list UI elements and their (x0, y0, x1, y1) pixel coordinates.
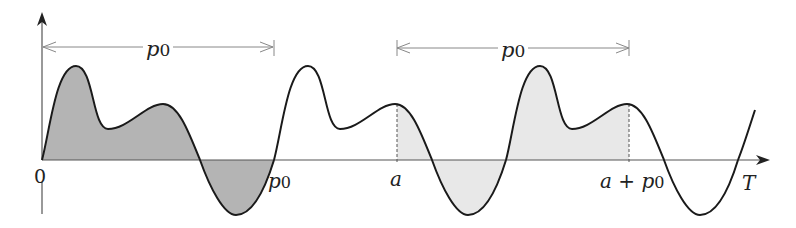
dimension-label-p0-first: p0 (146, 37, 170, 61)
shaded-region-a-to-a-plus-p0 (274, 66, 738, 215)
shaded-region-0-to-p0 (42, 66, 274, 215)
origin-label: 0 (34, 165, 46, 187)
x-axis-label: T (742, 171, 757, 195)
tick-label-a: a (390, 167, 402, 191)
tick-label-p0: p0 (268, 169, 291, 193)
periodic-function-diagram: p0 p0 0 p0 a a + p0 T (0, 0, 796, 228)
tick-label-a-plus-p0: a + p0 (600, 169, 664, 193)
dimension-label-p0-second: p0 (501, 38, 525, 62)
